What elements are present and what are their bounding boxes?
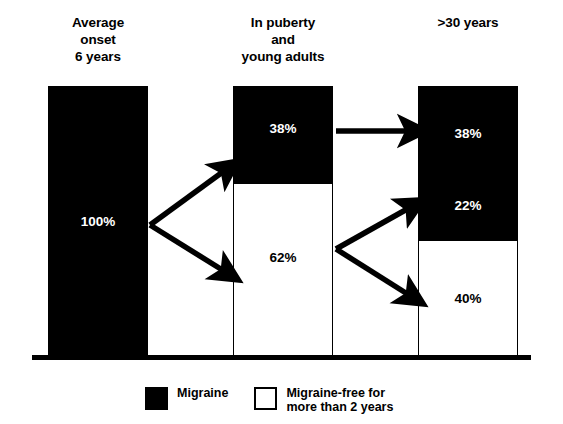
migraine-progression-chart: Average onset 6 years In puberty and you…: [0, 0, 563, 424]
bar-over-30-years: 38% 22% 40%: [418, 86, 518, 356]
legend-item-migraine: Migraine: [145, 386, 228, 410]
column-header-average-onset: Average onset 6 years: [36, 14, 160, 65]
arrow-onset-to-puberty-migraine-free: [150, 225, 224, 271]
bar-segment-label-38: 38%: [233, 121, 333, 136]
legend-swatch-migraine-free: [254, 387, 277, 410]
arrow-puberty-free-to-over30-migraine: [336, 208, 409, 249]
bar-segment-label-22: 22%: [418, 198, 518, 213]
bar-puberty-young-adults: 38% 62%: [233, 86, 333, 356]
bar-segment-label-100: 100%: [48, 214, 148, 229]
legend-item-migraine-free: Migraine-free for more than 2 years: [254, 386, 393, 414]
column-header-over-30-years: >30 years: [406, 14, 530, 31]
bar-average-onset: 100%: [48, 86, 148, 356]
legend-swatch-migraine: [145, 387, 168, 410]
legend-label-migraine: Migraine: [177, 386, 228, 400]
column-header-puberty-young-adults: In puberty and young adults: [221, 14, 345, 65]
bar-segment-migraine-60-combined: [418, 86, 518, 240]
bar-segment-migraine-free-62: [233, 183, 333, 356]
legend-label-migraine-free: Migraine-free for more than 2 years: [286, 386, 393, 414]
chart-baseline: [32, 355, 531, 360]
bar-segment-label-62: 62%: [233, 250, 333, 265]
arrow-onset-to-puberty-migraine: [150, 171, 224, 225]
bar-segment-label-40: 40%: [418, 291, 518, 306]
arrow-puberty-free-to-over30-free: [336, 249, 409, 295]
bar-segment-label-38: 38%: [418, 126, 518, 141]
chart-legend: Migraine Migraine-free for more than 2 y…: [145, 386, 393, 414]
